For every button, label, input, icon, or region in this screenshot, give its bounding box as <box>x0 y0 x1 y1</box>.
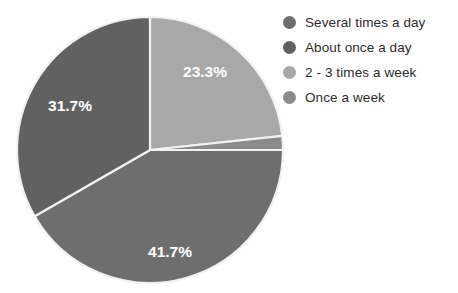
legend-item-about-once-a-day[interactable]: About once a day <box>283 35 458 60</box>
chart-legend: Several times a day About once a day 2 -… <box>283 10 458 110</box>
legend-swatch-icon <box>283 16 296 29</box>
pie-slice-value-label: 31.7% <box>48 97 92 114</box>
pie-slice[interactable] <box>150 17 282 150</box>
legend-swatch-icon <box>283 41 296 54</box>
pie-plot-area: 23.3%41.7%31.7% <box>0 0 290 293</box>
legend-item-label: Once a week <box>305 90 385 105</box>
legend-item-label: 2 - 3 times a week <box>305 65 416 80</box>
pie-svg: 23.3%41.7%31.7% <box>0 0 290 293</box>
legend-item-label: Several times a day <box>305 15 425 30</box>
pie-slice-value-label: 23.3% <box>183 63 227 80</box>
legend-item-2-3-times-a-week[interactable]: 2 - 3 times a week <box>283 60 458 85</box>
legend-item-label: About once a day <box>305 40 412 55</box>
pie-chart-figure: 23.3%41.7%31.7% Several times a day Abou… <box>0 0 458 293</box>
legend-swatch-icon <box>283 66 296 79</box>
legend-item-once-a-week[interactable]: Once a week <box>283 85 458 110</box>
legend-item-several-times-a-day[interactable]: Several times a day <box>283 10 458 35</box>
legend-swatch-icon <box>283 91 296 104</box>
pie-slice-value-label: 41.7% <box>148 243 192 260</box>
